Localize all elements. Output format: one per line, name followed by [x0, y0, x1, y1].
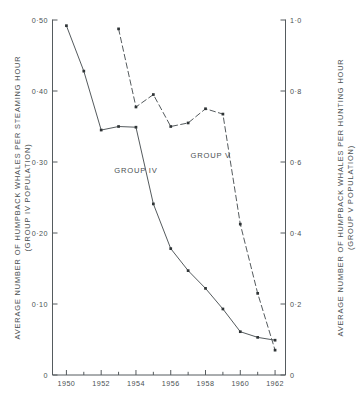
axis-titles-layer: AVERAGE NUMBER OF HUMPBACK WHALES PER ST… — [13, 56, 355, 340]
right-axis: 00·20·40·60·81·0 — [281, 16, 302, 380]
data-point-group-v — [169, 125, 172, 128]
data-point-group-iv — [135, 126, 138, 129]
data-point-group-iv — [117, 125, 120, 128]
data-point-group-iv — [187, 269, 190, 272]
right-axis-tick-label: 0·4 — [290, 229, 302, 238]
left-axis-title: AVERAGE NUMBER OF HUMPBACK WHALES PER ST… — [13, 56, 22, 340]
data-point-group-v — [256, 292, 259, 295]
data-point-group-v — [204, 107, 207, 110]
data-point-group-v — [187, 122, 190, 125]
annotation-layer: GROUP IVGROUP V — [114, 151, 231, 174]
right-axis-title: AVERAGE NUMBER OF HUMPBACK WHALES PER HU… — [336, 58, 345, 336]
bottom-axis-tick-label: 1952 — [92, 379, 110, 388]
right-axis-title-sub: (GROUP V POPULATION) — [346, 145, 355, 250]
series-line-group-iv — [66, 26, 275, 341]
humpback-whale-catch-chart: 00·100·200·300·400·50 00·20·40·60·81·0 1… — [0, 0, 363, 414]
data-point-group-iv — [65, 24, 68, 27]
left-axis-tick-label: 0·30 — [32, 158, 48, 167]
chart-figure: 00·100·200·300·400·50 00·20·40·60·81·0 1… — [0, 0, 363, 414]
data-point-group-iv — [152, 203, 155, 206]
bottom-axis-tick-label: 1954 — [127, 379, 145, 388]
right-axis-tick-label: 0·6 — [290, 158, 302, 167]
bottom-axis-tick-label: 1956 — [162, 379, 180, 388]
right-axis-tick-label: 0·2 — [290, 300, 302, 309]
right-axis-tick-label: 0 — [290, 371, 294, 380]
left-axis-title-sub: (GROUP IV POPULATION) — [23, 144, 32, 252]
bottom-axis-tick-label: 1950 — [58, 379, 76, 388]
left-axis-tick-label: 0 — [44, 371, 48, 380]
data-point-group-iv — [256, 336, 259, 339]
bottom-axis: 1950195219541956195819601962 — [53, 370, 286, 388]
series-line-group-v — [119, 29, 276, 350]
left-axis-tick-label: 0·50 — [32, 16, 48, 25]
left-axis-tick-label: 0·20 — [32, 229, 48, 238]
data-point-group-v — [135, 106, 138, 109]
bottom-axis-tick-label: 1960 — [231, 379, 249, 388]
data-point-group-iv — [204, 287, 207, 290]
bottom-axis-tick-label: 1958 — [197, 379, 215, 388]
data-point-group-iv — [274, 339, 277, 342]
right-axis-tick-label: 0·8 — [290, 87, 302, 96]
data-point-group-iv — [222, 308, 225, 311]
data-point-group-iv — [82, 70, 85, 73]
data-point-group-v — [117, 28, 120, 31]
group-v-label: GROUP V — [190, 151, 231, 160]
data-point-group-v — [152, 93, 155, 96]
left-axis-tick-label: 0·10 — [32, 300, 48, 309]
group-iv-label: GROUP IV — [114, 166, 158, 175]
right-axis-tick-label: 1·0 — [290, 16, 302, 25]
data-point-group-v — [222, 113, 225, 116]
data-point-group-iv — [239, 330, 242, 333]
data-point-group-v — [274, 349, 277, 352]
data-point-group-v — [239, 223, 242, 226]
data-point-group-iv — [169, 247, 172, 250]
left-axis: 00·100·200·300·400·50 — [32, 16, 58, 380]
series-layer — [65, 24, 276, 351]
bottom-axis-tick-label: 1962 — [266, 379, 284, 388]
data-point-group-iv — [100, 129, 103, 132]
left-axis-tick-label: 0·40 — [32, 87, 48, 96]
